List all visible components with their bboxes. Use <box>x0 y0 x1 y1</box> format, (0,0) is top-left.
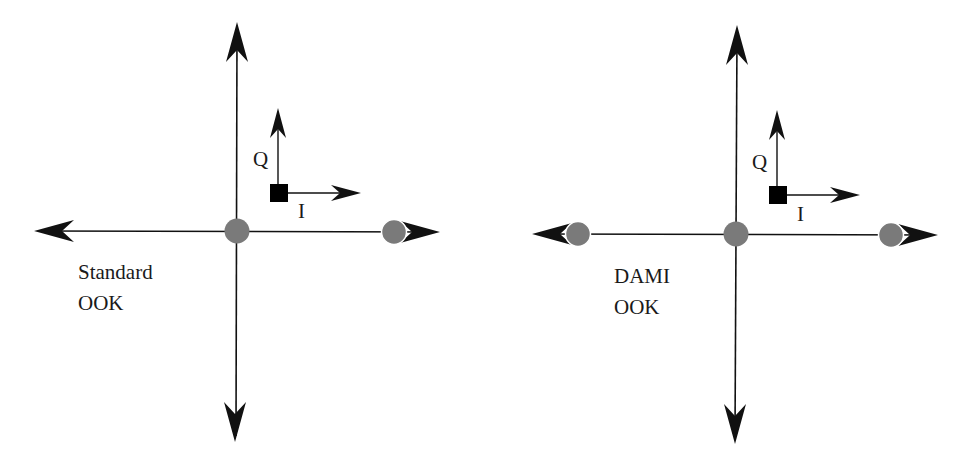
constellation-point-origin <box>724 222 749 247</box>
i-axis-label: I <box>298 201 305 222</box>
panel-caption-line2: OOK <box>614 297 660 318</box>
inset-origin-square <box>769 186 787 204</box>
panel-caption-line1: Standard <box>78 262 153 283</box>
constellation-diagrams <box>0 0 963 468</box>
iq-reference-inset <box>270 108 361 202</box>
q-axis-label: Q <box>253 149 268 170</box>
constellation-point-origin <box>225 219 250 244</box>
i-axis-label: I <box>797 204 804 225</box>
panel-caption-line1: DAMI <box>614 266 670 287</box>
constellation-point-positive <box>879 223 904 248</box>
panel-caption-line2: OOK <box>78 293 124 314</box>
iq-reference-inset <box>769 110 860 204</box>
q-axis-label: Q <box>752 152 767 173</box>
inset-origin-square <box>270 184 288 202</box>
panel-standard-ook <box>34 22 440 442</box>
arrow-down-icon <box>224 402 246 442</box>
panel-dami-ook <box>532 25 938 444</box>
constellation-point-negative <box>566 222 591 247</box>
constellation-point-on <box>382 220 407 245</box>
